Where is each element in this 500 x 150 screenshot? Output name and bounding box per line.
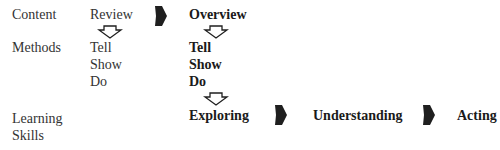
filled-right-arrow-icon [422, 103, 436, 127]
review-method-do: Do [90, 74, 107, 90]
hollow-down-arrow-icon [97, 25, 123, 39]
overview-heading: Overview [189, 7, 247, 23]
review-heading: Review [90, 7, 133, 23]
skill-understanding: Understanding [313, 108, 402, 124]
row-label-content: Content [12, 7, 56, 23]
overview-method-tell: Tell [189, 40, 211, 56]
row-label-methods: Methods [12, 40, 61, 56]
hollow-down-arrow-icon [203, 25, 229, 39]
overview-method-do: Do [189, 74, 206, 90]
review-method-tell: Tell [90, 40, 112, 56]
row-label-learning: Learning [12, 111, 63, 127]
review-method-show: Show [90, 57, 122, 73]
overview-method-show: Show [189, 57, 222, 73]
skill-acting: Acting [457, 108, 497, 124]
skill-exploring: Exploring [189, 108, 249, 124]
filled-right-arrow-icon [154, 4, 168, 28]
row-label-skills: Skills [12, 128, 44, 144]
hollow-down-arrow-icon [203, 92, 229, 106]
filled-right-arrow-icon [274, 103, 288, 127]
